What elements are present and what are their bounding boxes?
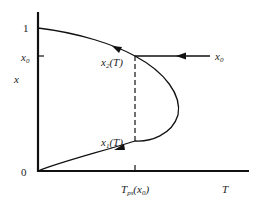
lower-branch-label: x1(T)	[100, 136, 123, 150]
y-axis-label: x	[13, 73, 19, 85]
y-tick-x0: x0	[20, 51, 30, 65]
input-x0-label: x0	[214, 50, 224, 64]
phase-diagram: 1 x0 x 0 x2(T) x1(T) x0 Tps(x0) T	[0, 0, 263, 201]
x-tick-tps: Tps(x0)	[121, 183, 149, 197]
upper-branch-label: x2(T)	[100, 56, 123, 70]
y-tick-0: 0	[21, 166, 27, 178]
arrow-icon	[176, 53, 186, 60]
x-axis-label: T	[222, 183, 229, 195]
y-tick-1: 1	[23, 22, 29, 34]
arrow-icon	[112, 46, 122, 53]
